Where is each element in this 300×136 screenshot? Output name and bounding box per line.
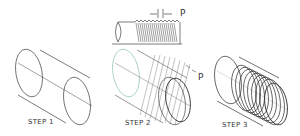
step-2-label: STEP 2 bbox=[125, 119, 151, 127]
thread-diagram bbox=[0, 0, 300, 136]
step-3-threaded-cylinder bbox=[211, 54, 290, 127]
top-pitch-label: P bbox=[180, 8, 186, 18]
top-thread-detail bbox=[112, 9, 182, 44]
step-1-cylinder bbox=[12, 47, 94, 127]
step-2-pitch-label: P bbox=[198, 72, 204, 82]
step-2-cylinder bbox=[109, 47, 196, 127]
step-3-label: STEP 3 bbox=[222, 121, 248, 129]
rod-section-icon bbox=[116, 22, 122, 42]
step-1-label: STEP 1 bbox=[28, 118, 54, 126]
